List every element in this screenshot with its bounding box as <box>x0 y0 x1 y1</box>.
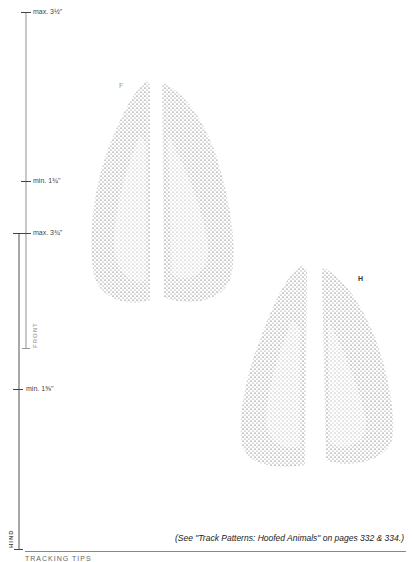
footer-header: TRACKING TIPS <box>25 555 92 562</box>
hind-max-label: max. 3¾" <box>33 229 62 236</box>
front-hoof-track-icon <box>80 75 250 310</box>
front-min-tick <box>21 181 31 182</box>
hind-end-tick <box>14 549 23 550</box>
hind-min-tick <box>13 389 23 390</box>
hind-hoof-track-icon <box>230 260 405 475</box>
front-min-label: min. 1¾" <box>33 177 60 184</box>
front-max-tick <box>21 12 31 13</box>
hind-scale-label: HIND <box>8 529 14 548</box>
front-scale-label: FRONT <box>32 322 38 348</box>
cross-reference-caption: (See "Track Patterns: Hoofed Animals" on… <box>175 533 404 543</box>
hind-min-label: min. 1⅝" <box>26 385 53 392</box>
front-end-tick <box>22 348 30 349</box>
front-scale-bar <box>25 12 27 348</box>
front-max-label: max. 3½" <box>33 8 62 15</box>
hind-scale-bar <box>18 233 20 549</box>
hind-max-tick <box>13 233 31 234</box>
footer-rule <box>25 551 406 552</box>
